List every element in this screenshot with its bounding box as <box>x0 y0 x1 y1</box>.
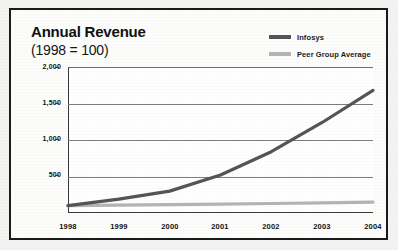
x-tick-label-1998: 1998 <box>48 222 88 231</box>
x-tick-label-2003: 2003 <box>302 222 342 231</box>
x-tick-label-1999: 1999 <box>99 222 139 231</box>
series-layer <box>68 67 373 213</box>
figure-frame: Annual Revenue (1998 = 100) Infosys Peer… <box>9 8 388 240</box>
legend-item-infosys: Infosys <box>269 30 394 44</box>
series-line-peer-group-average <box>68 202 373 206</box>
legend-label-infosys: Infosys <box>297 33 324 42</box>
chart-subtitle: (1998 = 100) <box>31 42 108 58</box>
legend-swatch-infosys <box>269 35 291 39</box>
y-tick-mark-1500 <box>55 103 59 104</box>
y-tick-mark-1000 <box>55 139 59 140</box>
legend-swatch-peer-group-average <box>269 52 291 56</box>
plot-area <box>68 67 373 213</box>
legend-label-peer-group-average: Peer Group Average <box>297 50 371 59</box>
legend-item-peer-group-average: Peer Group Average <box>269 47 394 61</box>
y-tick-mark-500 <box>55 175 59 176</box>
page-title: Annual Revenue <box>31 23 146 40</box>
x-tick-label-2001: 2001 <box>200 222 240 231</box>
series-line-infosys <box>68 90 373 205</box>
chart-legend: Infosys Peer Group Average <box>269 30 394 64</box>
x-tick-label-2002: 2002 <box>251 222 291 231</box>
chart-screenshot: Annual Revenue (1998 = 100) Infosys Peer… <box>0 0 398 250</box>
y-tick-mark-2000 <box>55 67 59 68</box>
x-tick-label-2000: 2000 <box>150 222 190 231</box>
x-tick-label-2004: 2004 <box>353 222 393 231</box>
